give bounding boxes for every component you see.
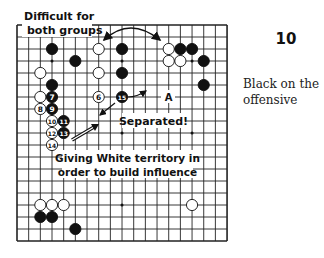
hollow-arrow-influence [72, 124, 99, 140]
caption-line-2: offensive [243, 92, 323, 108]
black-stone [46, 43, 57, 54]
diagram-caption: Black on the offensive [243, 76, 323, 108]
white-stone [35, 199, 46, 210]
white-stone [46, 199, 57, 210]
svg-text:12: 12 [48, 130, 56, 137]
white-stone-10: 10 [46, 115, 57, 126]
svg-text:13: 13 [60, 130, 68, 137]
svg-text:8: 8 [38, 105, 43, 114]
black-stone [46, 79, 57, 90]
black-stone [198, 79, 209, 90]
svg-text:10: 10 [48, 118, 56, 125]
white-stone-12: 12 [46, 127, 57, 138]
black-stone [116, 67, 127, 78]
svg-text:6: 6 [96, 93, 101, 102]
svg-text:11: 11 [60, 118, 68, 125]
go-board: 7615891011121314 Difficult for both grou… [0, 0, 240, 258]
separated-label: Separated! [119, 115, 188, 128]
black-stone [198, 55, 209, 66]
black-stone [70, 223, 81, 234]
black-stone-13: 13 [58, 127, 69, 138]
black-stone-15: 15 [116, 91, 127, 102]
black-stone [186, 43, 197, 54]
white-stone [93, 43, 104, 54]
difficult-label-line2: both groups [27, 24, 103, 37]
black-stone [175, 43, 186, 54]
white-stone [35, 91, 46, 102]
black-stone [116, 43, 127, 54]
white-stone-6: 6 [93, 91, 104, 102]
black-stone-7: 7 [46, 91, 57, 102]
white-stone [186, 199, 197, 210]
white-stone [175, 55, 186, 66]
black-stone [70, 55, 81, 66]
black-stone-11: 11 [58, 115, 69, 126]
diagram-number: 10 [262, 30, 310, 48]
double-headed-arc-arrow [104, 28, 160, 40]
white-stone [163, 43, 174, 54]
white-stone [35, 67, 46, 78]
go-board-diagram: 7615891011121314 Difficult for both grou… [0, 0, 240, 258]
black-stone [35, 211, 46, 222]
svg-text:15: 15 [118, 94, 126, 101]
arrow-15-to-upper-right [128, 91, 146, 97]
giving-label-line1: Giving White territory in [55, 152, 200, 164]
white-stone [93, 67, 104, 78]
white-stone [163, 55, 174, 66]
white-stone [58, 199, 69, 210]
point-label-A: A [165, 92, 173, 103]
svg-text:9: 9 [49, 105, 54, 114]
black-stone [46, 211, 57, 222]
white-stone-14: 14 [46, 139, 57, 150]
svg-text:14: 14 [48, 142, 56, 149]
svg-text:7: 7 [49, 93, 54, 102]
white-stone-8: 8 [35, 103, 46, 114]
difficult-label-line1: Difficult for [24, 10, 95, 23]
giving-label-line2: order to build influence [58, 166, 197, 178]
caption-line-1: Black on the [243, 76, 323, 92]
black-stone-9: 9 [46, 103, 57, 114]
